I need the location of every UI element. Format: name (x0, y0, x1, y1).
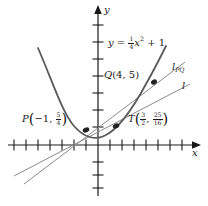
point-t-y-fraction: 2516 (153, 112, 163, 126)
point-marker-p (82, 127, 90, 134)
equation-equals: = (117, 37, 125, 48)
line-pq-subscript: PQ (175, 66, 184, 73)
point-label-t: T(32, 2516) (128, 112, 168, 126)
y-axis-arrow (94, 5, 102, 14)
point-p-comma: , (49, 113, 52, 124)
graph-svg (0, 0, 208, 206)
point-q-close-paren: ) (135, 69, 139, 80)
x-axis (8, 141, 201, 149)
point-q-comma: , (122, 69, 125, 80)
equation-constant: 1 (159, 37, 165, 48)
point-p-close-paren: ) (61, 111, 67, 127)
y-axis (94, 5, 102, 196)
point-p-name: P (22, 113, 29, 124)
equation-plus: + (147, 37, 155, 48)
point-marker-q (150, 78, 158, 86)
equation-y: y (108, 37, 114, 48)
line-label-tangent: l (182, 81, 185, 91)
y-axis-label: y (104, 5, 110, 15)
point-label-p: P(−1, 54) (22, 112, 67, 126)
figure-canvas: y = 1 4 x2 + 1 Q(4, 5) P(−1, 54) T(32, 2… (0, 0, 208, 206)
point-t-comma: , (146, 113, 149, 124)
curve-equation-label: y = 1 4 x2 + 1 (108, 36, 165, 50)
line-tangent-base: l (182, 80, 185, 91)
equation-exponent: 2 (140, 35, 144, 42)
point-p-x: −1 (34, 113, 49, 124)
point-t-name: T (128, 113, 135, 124)
point-label-q: Q(4, 5) (104, 70, 139, 80)
x-axis-label: x (192, 148, 198, 158)
point-t-close-paren: ) (163, 111, 169, 127)
point-q-name: Q (104, 69, 112, 80)
point-t-y-denominator: 16 (153, 120, 163, 127)
line-label-pq: lPQ (172, 62, 184, 73)
